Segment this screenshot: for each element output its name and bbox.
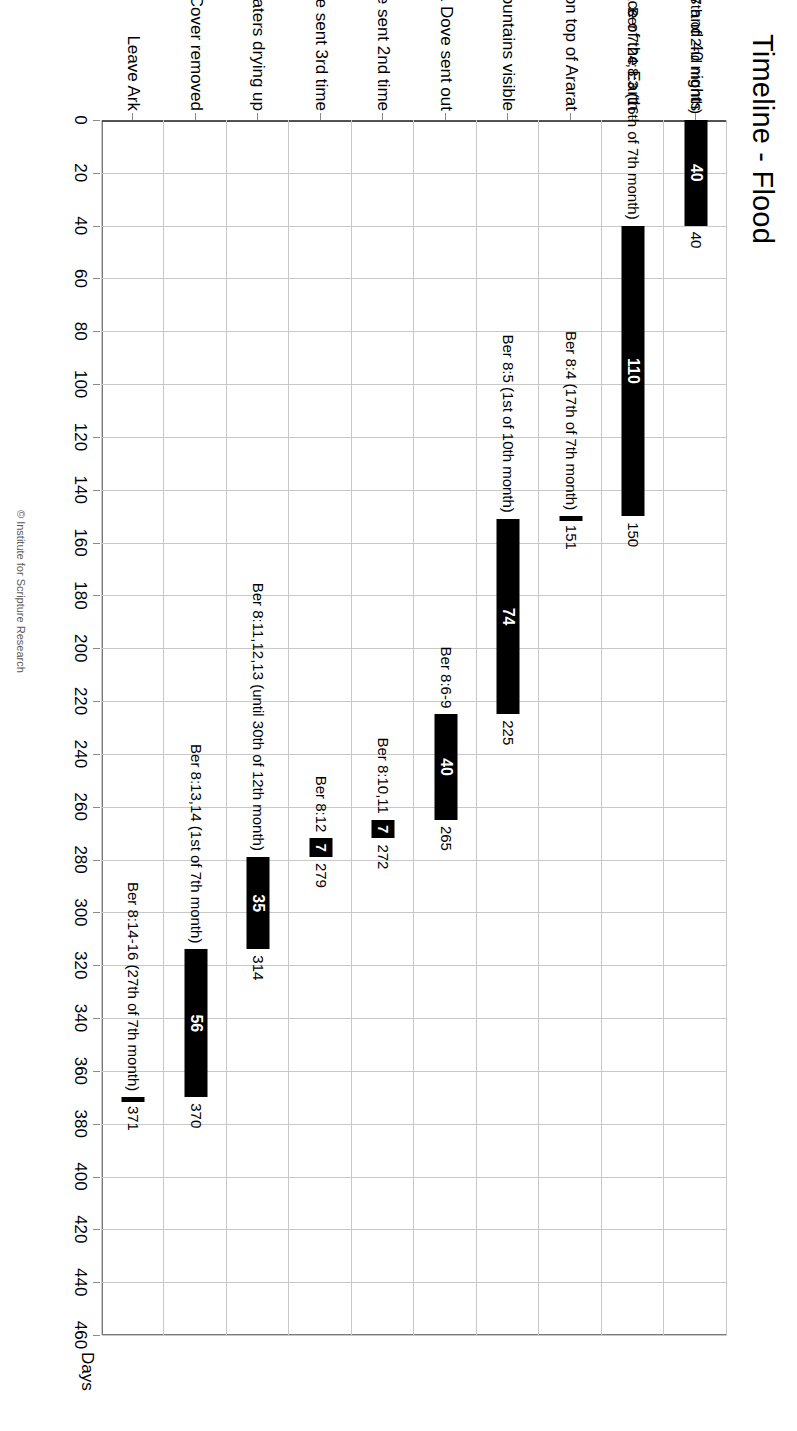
day-axis-tick-mark (93, 595, 100, 596)
day-axis-tick-mark (93, 1177, 100, 1178)
bar-row[interactable]: Top of Mountains visible74225Ber 8:5 (1s… (477, 120, 540, 1335)
bar-duration-label: 110 (622, 226, 645, 517)
day-axis-tick-mark (93, 965, 100, 966)
category-tick-mark (445, 113, 446, 120)
day-axis-tick-label: 80 (70, 322, 90, 341)
day-axis-tick-label: 400 (70, 1162, 90, 1190)
bar-end-value-label: 370 (187, 1103, 204, 1128)
day-axis-tick-label: 60 (70, 269, 90, 288)
day-axis-tick-label: 220 (70, 687, 90, 715)
bar-row[interactable]: Rain 40 days and 40 nights4040Ber 7:4,11… (665, 120, 728, 1335)
gantt-bar[interactable] (559, 516, 582, 521)
chart-rotation-frame: Timeline - Flood Rain 40 days and 40 nig… (0, 0, 797, 1431)
bar-end-value-label: 225 (500, 720, 517, 745)
bar-row[interactable]: Dove sent 2nd time7272Ber 8:10,11 (352, 120, 415, 1335)
day-axis-tick-mark (93, 648, 100, 649)
bar-duration-label: 7 (309, 838, 332, 856)
day-axis-tick-mark (93, 860, 100, 861)
bar-reference-label: Ber 8:10,11 (375, 738, 392, 814)
day-axis-label: Days (77, 1352, 97, 1391)
category-tick-label: Waters drying up (248, 0, 268, 111)
category-tick-label: Leave Ark (123, 35, 143, 111)
day-axis-tick-mark (93, 1282, 100, 1283)
category-tick-mark (132, 113, 133, 120)
category-tick-mark (382, 113, 383, 120)
day-axis-tick-mark (93, 1124, 100, 1125)
bar-end-value-label: 314 (250, 955, 267, 980)
day-axis-tick-label: 460 (70, 1321, 90, 1349)
category-tick-label: After 40 days Raven & Dove sent out (436, 0, 456, 111)
bar-duration-label: 40 (434, 714, 457, 820)
day-axis-tick-label: 280 (70, 845, 90, 873)
day-axis-tick-label: 300 (70, 898, 90, 926)
day-axis-tick-mark (93, 912, 100, 913)
bar-end-value-label: 150 (625, 522, 642, 547)
bar-reference-label: Ber 8:11,12,13 (until 30th of 12th month… (250, 583, 267, 851)
bar-duration-label: 35 (247, 857, 270, 949)
bar-end-value-label: 279 (312, 863, 329, 888)
day-axis-tick-label: 360 (70, 1057, 90, 1085)
bar-duration-label: 74 (497, 519, 520, 714)
plot-area: Rain 40 days and 40 nights4040Ber 7:4,11… (102, 120, 727, 1335)
day-axis-tick-mark (93, 173, 100, 174)
day-axis-tick-mark (93, 120, 100, 121)
day-axis-tick-label: 180 (70, 581, 90, 609)
day-axis-tick-label: 340 (70, 1004, 90, 1032)
day-axis-tick-label: 120 (70, 423, 90, 451)
day-axis-tick-label: 0 (70, 115, 90, 124)
day-axis-tick-mark (93, 490, 100, 491)
bar-row[interactable]: After 40 days Raven & Dove sent out40265… (415, 120, 478, 1335)
day-axis-tick-mark (93, 437, 100, 438)
day-axis-tick-label: 160 (70, 528, 90, 556)
bar-row[interactable]: Waters on the face of the Earth110150Ber… (602, 120, 665, 1335)
bar-reference-label: Ber 8:5 (1st of 10th month) (500, 334, 517, 512)
copyright-notice: © Institute for Scripture Research (15, 510, 27, 673)
day-axis-tick-label: 420 (70, 1215, 90, 1243)
category-tick-label: Waters dry, Cover removed (186, 0, 206, 111)
bar-duration-label: 7 (372, 820, 395, 838)
bar-reference-label: Ber 8:6-9 (437, 647, 454, 709)
day-axis: 0204060801001201401601802002202402602803… (40, 120, 100, 1335)
bar-end-value-label: 371 (125, 1106, 142, 1131)
day-axis-tick-mark (93, 384, 100, 385)
category-tick-mark (570, 113, 571, 120)
bar-reference-label: Ber 7:24;8:3 (16th of 7th month) (625, 7, 642, 220)
day-axis-tick-mark (93, 278, 100, 279)
day-axis-tick-label: 40 (70, 216, 90, 235)
category-tick-label: Dove sent 2nd time (373, 0, 393, 111)
day-axis-tick-label: 140 (70, 476, 90, 504)
day-axis-tick-mark (93, 226, 100, 227)
day-axis-tick-label: 260 (70, 793, 90, 821)
bar-reference-label: Ber 8:4 (17th of 7th month) (562, 331, 579, 510)
bar-row[interactable]: Waters drying up35314Ber 8:11,12,13 (unt… (227, 120, 290, 1335)
bar-row[interactable]: Waters dry, Cover removed56370Ber 8:13,1… (165, 120, 228, 1335)
day-axis-tick-label: 100 (70, 370, 90, 398)
category-tick-mark (507, 113, 508, 120)
day-axis-tick-mark (93, 1335, 100, 1336)
category-tick-mark (695, 113, 696, 120)
gridline-vertical (102, 1335, 727, 1336)
gantt-bar[interactable] (122, 1097, 145, 1102)
category-tick-label: Ark rests on top of Ararat (561, 0, 581, 111)
bar-end-value-label: 151 (562, 525, 579, 550)
day-axis-tick-mark (93, 1018, 100, 1019)
day-axis-tick-label: 440 (70, 1268, 90, 1296)
bar-duration-label: 56 (184, 949, 207, 1097)
bar-reference-label: Ber 8:13,14 (1st of 7th month) (187, 744, 204, 943)
chart-title: Timeline - Flood (746, 34, 779, 244)
bar-reference-label: Ber 8:14-16 (27th of 7th month) (125, 882, 142, 1091)
bar-end-value-label: 265 (437, 826, 454, 851)
bar-reference-label: Ber 8:12 (312, 776, 329, 833)
category-tick-label: Dove sent 3rd time (311, 0, 331, 111)
day-axis-tick-mark (93, 701, 100, 702)
day-axis-tick-mark (93, 1229, 100, 1230)
bar-row[interactable]: Dove sent 3rd time7279Ber 8:12 (290, 120, 353, 1335)
bar-row[interactable]: Ark rests on top of Ararat151Ber 8:4 (17… (540, 120, 603, 1335)
day-axis-tick-mark (93, 543, 100, 544)
bar-row[interactable]: Leave Ark371Ber 8:14-16 (27th of 7th mon… (102, 120, 165, 1335)
bar-duration-label: 40 (684, 120, 707, 226)
category-tick-mark (195, 113, 196, 120)
day-axis-tick-label: 380 (70, 1110, 90, 1138)
bar-end-value-label: 272 (375, 844, 392, 869)
bar-reference-label: Ber 7:4,11,12 (Begins 17th of 2nd month) (687, 0, 704, 114)
